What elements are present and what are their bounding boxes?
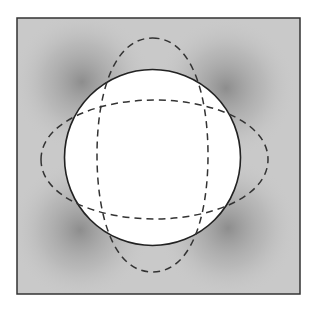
diagram-canvas — [0, 0, 318, 310]
deformation-diagram — [0, 0, 318, 310]
